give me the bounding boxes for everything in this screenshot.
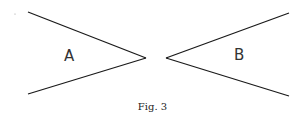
figure-canvas: A B Fig. 3 (0, 0, 305, 120)
shape-a-label: A (64, 49, 74, 64)
shape-a-lower-line (28, 58, 146, 94)
shape-b (166, 13, 289, 96)
shape-b-upper-line (166, 13, 289, 58)
figure-caption: Fig. 3 (0, 101, 305, 112)
shape-a-upper-line (28, 12, 146, 58)
stray-dot (14, 13, 15, 14)
shape-b-label: B (234, 48, 244, 63)
shape-b-lower-line (166, 58, 289, 96)
shape-a (28, 12, 146, 94)
